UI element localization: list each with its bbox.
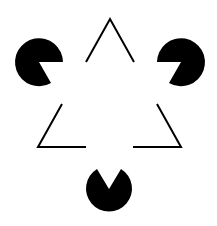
kanizsa-triangle-figure — [0, 0, 217, 226]
outline-corner-top — [86, 19, 134, 62]
outline-corner-bottom-left — [38, 104, 86, 147]
pacman-left — [15, 38, 63, 86]
outline-corner-bottom-right — [133, 104, 181, 147]
pacman-bottom — [86, 169, 132, 212]
pacman-right — [157, 38, 205, 86]
